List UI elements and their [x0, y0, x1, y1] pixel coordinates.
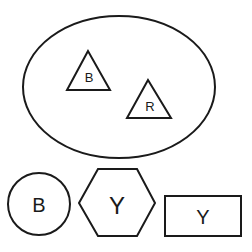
diagram-canvas: B R B Y Y	[0, 0, 252, 252]
triangle-r-label: R	[145, 99, 154, 114]
triangle-b: B	[67, 51, 110, 90]
rectangle-y: Y	[165, 196, 241, 236]
diagram-svg: B R B Y Y	[0, 0, 252, 252]
hexagon-y-label: Y	[109, 192, 125, 219]
circle-b-label: B	[32, 194, 45, 216]
triangle-r: R	[127, 80, 171, 118]
container-ellipse	[23, 16, 215, 158]
hexagon-y: Y	[79, 169, 155, 236]
circle-b: B	[8, 173, 70, 235]
rectangle-y-label: Y	[196, 206, 209, 228]
triangle-b-label: B	[85, 70, 94, 85]
